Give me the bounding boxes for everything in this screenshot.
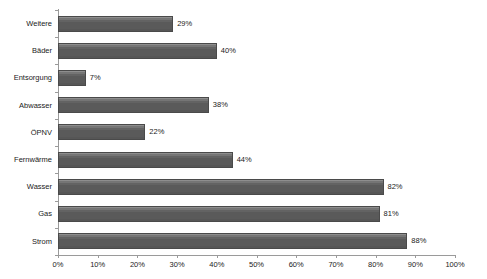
x-axis-tick-label: 30% <box>170 261 185 269</box>
category-label: Weitere <box>26 20 52 28</box>
x-axis-tick-label: 80% <box>368 261 383 269</box>
bar: 81% <box>58 206 380 222</box>
x-axis-tick <box>58 255 59 258</box>
bar-value-label: 38% <box>213 102 228 110</box>
x-axis-tick <box>376 255 377 258</box>
y-axis-tick <box>55 228 58 229</box>
x-axis-tick <box>415 255 416 258</box>
category-label: Fernwärme <box>14 156 52 164</box>
x-axis-tick <box>296 255 297 258</box>
x-axis-tick <box>257 255 258 258</box>
x-axis-tick <box>455 255 456 258</box>
x-axis-tick <box>177 255 178 258</box>
bar-value-label: 22% <box>149 129 164 137</box>
bar-row: Entsorgung7% <box>58 64 455 91</box>
bar-row: Strom88% <box>58 228 455 255</box>
category-label: Bäder <box>32 47 52 55</box>
category-label: Entsorgung <box>14 74 52 82</box>
y-axis-tick <box>55 37 58 38</box>
x-axis-tick-label: 20% <box>130 261 145 269</box>
y-axis-tick <box>55 173 58 174</box>
bar: 29% <box>58 16 173 32</box>
category-label: ÖPNV <box>31 129 52 137</box>
x-axis-tick-label: 40% <box>209 261 224 269</box>
category-label: Wasser <box>27 183 52 191</box>
bar-row: Wasser82% <box>58 173 455 200</box>
bar: 7% <box>58 70 86 86</box>
category-label: Gas <box>38 210 52 218</box>
x-axis-tick-label: 60% <box>289 261 304 269</box>
y-axis-tick <box>55 10 58 11</box>
bar: 40% <box>58 43 217 59</box>
x-axis-tick <box>217 255 218 258</box>
x-axis-tick-label: 90% <box>408 261 423 269</box>
x-axis-tick-label: 10% <box>90 261 105 269</box>
plot-area: Weitere29%Bäder40%Entsorgung7%Abwasser38… <box>58 10 455 255</box>
bar: 82% <box>58 179 384 195</box>
bar: 88% <box>58 233 407 249</box>
x-axis-tick-label: 50% <box>249 261 264 269</box>
bar-value-label: 81% <box>384 210 399 218</box>
y-axis-tick <box>55 201 58 202</box>
bar-row: Fernwärme44% <box>58 146 455 173</box>
bar-chart: Weitere29%Bäder40%Entsorgung7%Abwasser38… <box>0 0 487 279</box>
y-axis-tick <box>55 92 58 93</box>
y-axis-tick <box>55 119 58 120</box>
bar-value-label: 44% <box>237 156 252 164</box>
bar-value-label: 7% <box>90 74 101 82</box>
y-axis-tick <box>55 146 58 147</box>
bar-row: ÖPNV22% <box>58 119 455 146</box>
x-axis-tick-label: 100% <box>445 261 464 269</box>
bar-rows: Weitere29%Bäder40%Entsorgung7%Abwasser38… <box>58 10 455 255</box>
bar-row: Bäder40% <box>58 37 455 64</box>
bar: 22% <box>58 124 145 140</box>
bar-value-label: 82% <box>388 183 403 191</box>
bar-value-label: 40% <box>221 47 236 55</box>
x-axis-tick <box>98 255 99 258</box>
bar-row: Gas81% <box>58 201 455 228</box>
y-axis-tick <box>55 64 58 65</box>
category-label: Abwasser <box>19 102 52 110</box>
x-axis-tick-label: 0% <box>53 261 64 269</box>
x-axis-tick <box>137 255 138 258</box>
bar-row: Weitere29% <box>58 10 455 37</box>
bar-value-label: 29% <box>177 20 192 28</box>
bar-value-label: 88% <box>411 238 426 246</box>
x-axis-tick-label: 70% <box>328 261 343 269</box>
bar: 38% <box>58 97 209 113</box>
x-axis-tick <box>336 255 337 258</box>
bar: 44% <box>58 152 233 168</box>
bar-row: Abwasser38% <box>58 92 455 119</box>
category-label: Strom <box>32 238 52 246</box>
